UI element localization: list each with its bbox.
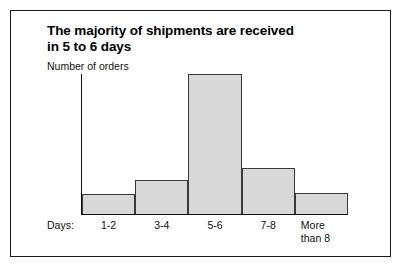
x-axis-labels: Days: 1-23-45-67-8More than 8 <box>11 217 392 257</box>
chart-title-line-2: in 5 to 6 days <box>47 39 367 55</box>
x-label-1-2: 1-2 <box>82 219 135 232</box>
chart-title-line-1: The majority of shipments are received <box>47 23 367 39</box>
bar-5-6 <box>188 74 241 214</box>
x-label-5-6: 5-6 <box>188 219 241 232</box>
bar-3-4 <box>135 180 188 214</box>
y-axis-label: Number of orders <box>47 60 129 72</box>
bar-1-2 <box>82 194 135 214</box>
bar-more-than-8 <box>295 193 348 214</box>
bar-series <box>82 74 348 214</box>
x-label-3-4: 3-4 <box>135 219 188 232</box>
x-label-more-than-8: More than 8 <box>295 219 348 244</box>
x-axis-line <box>81 214 348 215</box>
chart-title: The majority of shipments are received i… <box>47 23 367 55</box>
x-label-7-8: 7-8 <box>242 219 295 232</box>
days-axis-caption: Days: <box>47 219 74 231</box>
chart-figure: The majority of shipments are received i… <box>10 10 391 257</box>
bar-7-8 <box>242 168 295 214</box>
